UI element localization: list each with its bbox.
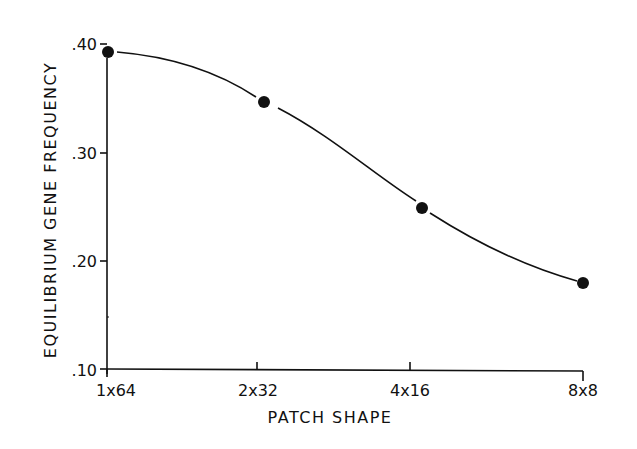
data-point — [416, 202, 428, 214]
data-line — [278, 108, 416, 201]
x-axis-title: PATCH SHAPE — [268, 408, 393, 427]
line-chart: .40 .30 .20 .10 1x64 2x32 4x16 8x8 PATCH… — [0, 0, 637, 449]
y-tick-label: .10 — [72, 361, 97, 380]
x-axis — [107, 369, 583, 371]
y-tick-label: .40 — [72, 35, 97, 54]
x-tick-label: 1x64 — [96, 381, 136, 400]
x-tick-label: 4x16 — [390, 381, 430, 400]
y-tick-label: .20 — [72, 252, 97, 271]
x-tick-label: 8x8 — [568, 381, 598, 400]
x-tick-label: 2x32 — [238, 381, 278, 400]
y-axis-title: EQUILIBRIUM GENE FREQUENCY — [41, 62, 60, 358]
data-point — [258, 96, 270, 108]
data-point — [577, 277, 589, 289]
data-markers — [102, 46, 589, 289]
data-line — [430, 213, 577, 281]
y-tick-label: .30 — [72, 144, 97, 163]
data-point — [102, 46, 114, 58]
y-tick-labels: .40 .30 .20 .10 — [72, 35, 97, 380]
x-tick-labels: 1x64 2x32 4x16 8x8 — [96, 381, 598, 400]
data-line — [117, 52, 256, 97]
